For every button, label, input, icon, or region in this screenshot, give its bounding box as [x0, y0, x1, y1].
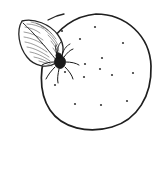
oil-gland-dot [74, 103, 76, 105]
oil-gland-dot [83, 76, 85, 78]
drawing-surface [0, 0, 164, 195]
illustration-canvas [0, 0, 164, 195]
oil-gland-dot [61, 30, 63, 32]
oil-gland-dot [84, 63, 86, 65]
oil-gland-dot [101, 57, 103, 59]
oil-gland-dot [94, 26, 96, 28]
moth-head [56, 53, 61, 58]
oil-gland-dot [79, 38, 81, 40]
oil-gland-dot [64, 71, 66, 73]
oil-gland-dot [100, 104, 102, 106]
oil-gland-dot [126, 100, 128, 102]
oil-gland-dot [122, 42, 124, 44]
oil-gland-dot [132, 72, 134, 74]
oil-gland-dot [54, 84, 56, 86]
oil-gland-dot [111, 74, 113, 76]
oil-gland-dot [99, 68, 101, 70]
